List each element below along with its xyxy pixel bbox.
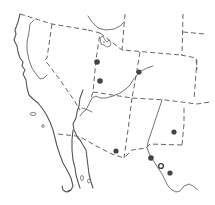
- occurrence-dot: [97, 78, 103, 84]
- border-arizona-newmexico: [124, 98, 132, 158]
- border-us-mexico: [58, 134, 124, 158]
- border-oregon-california: [20, 14, 88, 30]
- colorado-river: [80, 66, 153, 116]
- border-idaho-wyoming: [122, 14, 125, 50]
- rio-grande: [147, 100, 198, 192]
- snake-river: [88, 16, 124, 30]
- border-utah-wyoming: [100, 33, 181, 55]
- border-nebraska: [182, 14, 183, 55]
- occurrence-dot: [113, 148, 118, 153]
- gulf-island: [88, 179, 91, 183]
- border-colorado-north: [181, 55, 197, 70]
- map-svg: [0, 0, 215, 205]
- border-newmexico-south: [124, 144, 182, 158]
- occurrence-dot-open: [159, 164, 164, 169]
- occurrence-dot: [136, 69, 141, 74]
- baja-tip: [62, 186, 70, 192]
- occurrence-dot: [167, 170, 172, 175]
- pacific-coastline: [14, 14, 73, 192]
- gulf-island: [81, 176, 84, 181]
- border-colorado-east: [194, 60, 197, 100]
- distribution-map: [0, 0, 215, 205]
- great-salt-lake: [100, 36, 111, 47]
- border-california-nevada: [45, 24, 80, 110]
- island: [42, 125, 44, 128]
- channel-island: [30, 113, 36, 116]
- border-four-corners: [93, 92, 210, 104]
- central-valley-river: [27, 20, 47, 79]
- occurrence-dot: [94, 59, 100, 65]
- border-dakota: [183, 32, 205, 34]
- lake-detail: [104, 42, 105, 43]
- occurrence-dot: [148, 155, 154, 161]
- border-newmexico-texas: [182, 108, 184, 145]
- border-utah-colorado: [132, 52, 140, 98]
- occurrence-dot: [171, 129, 176, 134]
